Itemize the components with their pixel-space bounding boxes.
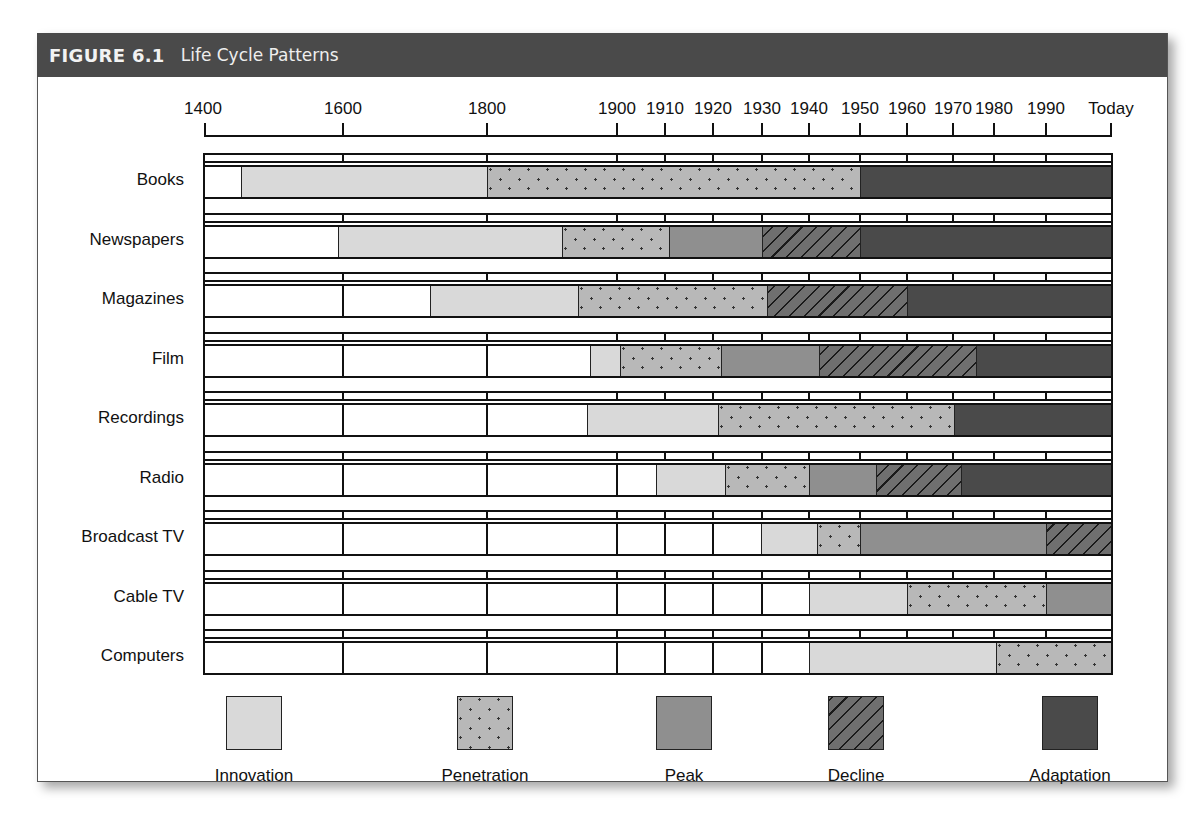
row-label-recordings: Recordings	[40, 408, 184, 428]
gridline	[859, 272, 861, 282]
gridline	[993, 332, 995, 342]
gridline	[486, 451, 488, 461]
figure-title-bar: FIGURE 6.1 Life Cycle Patterns	[37, 33, 1167, 77]
gridline	[342, 153, 344, 163]
segment-peak	[860, 524, 1046, 554]
gridline	[664, 629, 666, 639]
segment-innovation	[656, 465, 725, 495]
segment-adaptation	[860, 227, 1112, 257]
legend-swatch-peak	[656, 696, 712, 750]
gridline	[1045, 510, 1047, 520]
gridline	[808, 332, 810, 342]
segment-blank	[205, 405, 587, 435]
row-label-newspapers: Newspapers	[40, 230, 184, 250]
gridline	[486, 153, 488, 163]
gridline	[616, 524, 618, 554]
gridline	[993, 629, 995, 639]
x-axis-tick-label: 1400	[184, 99, 222, 119]
gridline	[616, 213, 618, 223]
gridline	[761, 153, 763, 163]
gridline	[808, 213, 810, 223]
gridline	[342, 346, 344, 376]
gridline	[761, 643, 763, 673]
gridline	[761, 391, 763, 401]
plot-right-border	[1111, 153, 1113, 675]
gridline	[906, 629, 908, 639]
gridline	[808, 153, 810, 163]
gridline	[342, 213, 344, 223]
x-axis-tick-label: 1990	[1027, 99, 1065, 119]
segment-innovation	[761, 524, 817, 554]
gridline	[952, 272, 954, 282]
row-label-books: Books	[40, 170, 184, 190]
x-axis-tick-label: 1900	[598, 99, 636, 119]
gridline	[808, 570, 810, 580]
segment-decline	[762, 227, 860, 257]
segment-blank	[205, 465, 656, 495]
segment-penetration	[996, 643, 1112, 673]
gridline	[664, 643, 666, 673]
gridline	[952, 213, 954, 223]
gridline	[859, 332, 861, 342]
bar-row	[205, 582, 1112, 616]
gridline	[761, 570, 763, 580]
x-axis-tick-label: 1980	[975, 99, 1013, 119]
gridline	[761, 213, 763, 223]
gridline	[616, 570, 618, 580]
gridline	[761, 510, 763, 520]
gridline	[1045, 629, 1047, 639]
gridline	[808, 510, 810, 520]
gridline	[906, 451, 908, 461]
gridline	[1045, 213, 1047, 223]
gridline	[859, 213, 861, 223]
gridline	[859, 451, 861, 461]
x-axis-tick-label: 1800	[468, 99, 506, 119]
segment-adaptation	[860, 167, 1112, 197]
gridline	[486, 213, 488, 223]
segment-adaptation	[907, 286, 1112, 316]
x-axis-tick-label: 1930	[743, 99, 781, 119]
gridline	[342, 405, 344, 435]
gridline	[712, 524, 714, 554]
x-axis-tick-label: 1920	[694, 99, 732, 119]
gridline	[664, 153, 666, 163]
segment-penetration	[487, 167, 860, 197]
row-label-film: Film	[40, 349, 184, 369]
gridline	[712, 332, 714, 342]
gridline	[952, 629, 954, 639]
segment-innovation	[430, 286, 578, 316]
gridline	[761, 332, 763, 342]
gridline	[664, 584, 666, 614]
legend-swatch-decline	[828, 696, 884, 750]
gridline	[712, 272, 714, 282]
legend-label-peak: Peak	[665, 766, 704, 786]
figure-title: Life Cycle Patterns	[181, 45, 339, 65]
segment-adaptation	[961, 465, 1112, 495]
gridline	[486, 629, 488, 639]
x-axis-tick-label: 1970	[934, 99, 972, 119]
segment-penetration	[620, 346, 721, 376]
row-label-computers: Computers	[40, 646, 184, 666]
gridline	[993, 391, 995, 401]
bar-row	[205, 403, 1112, 437]
row-label-magazines: Magazines	[40, 289, 184, 309]
segment-penetration	[562, 227, 669, 257]
gridline	[342, 524, 344, 554]
gridline	[486, 584, 488, 614]
gridline	[712, 629, 714, 639]
gridline	[616, 451, 618, 461]
gridline	[859, 153, 861, 163]
gridline	[993, 272, 995, 282]
gridline	[664, 332, 666, 342]
gridline	[664, 391, 666, 401]
legend-label-penetration: Penetration	[442, 766, 529, 786]
x-axis-line	[205, 135, 1112, 137]
gridline	[486, 346, 488, 376]
gridline	[808, 451, 810, 461]
x-axis-tick-label: 1960	[888, 99, 926, 119]
gridline	[761, 272, 763, 282]
gridline	[906, 153, 908, 163]
bar-row	[205, 225, 1112, 259]
gridline	[342, 570, 344, 580]
gridline	[952, 510, 954, 520]
